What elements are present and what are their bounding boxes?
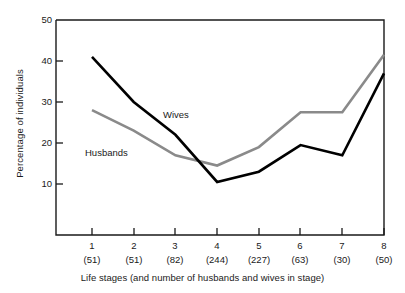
x-axis-ticks [92, 228, 384, 235]
plot-area [0, 0, 405, 293]
series-line-husbands [92, 55, 384, 166]
series-line-wives [92, 57, 384, 182]
axis-frame [56, 20, 384, 235]
chart-figure: Percentage of individuals 50 40 30 20 10… [0, 0, 405, 293]
plot-border [56, 20, 384, 235]
y-axis-ticks [56, 61, 63, 184]
